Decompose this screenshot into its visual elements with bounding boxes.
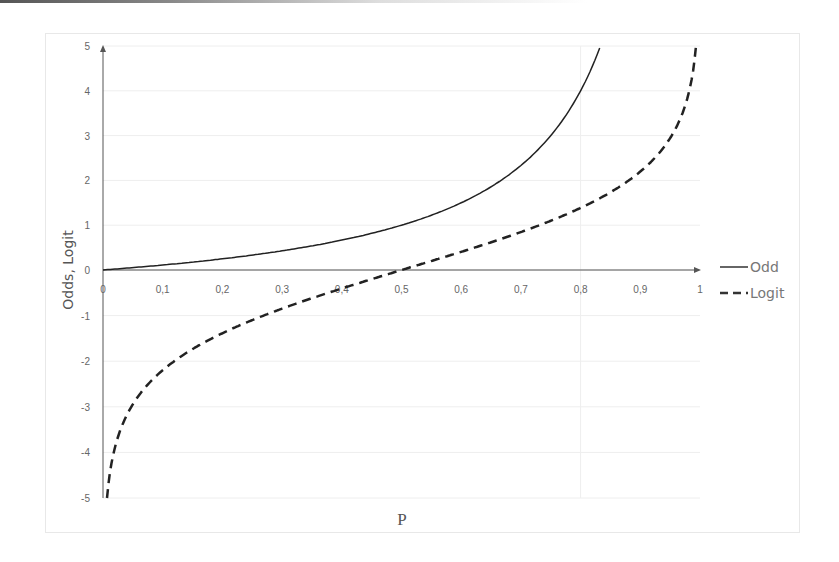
y-tick-label: -2 — [81, 356, 90, 367]
y-tick-label: -5 — [81, 493, 90, 504]
x-axis-arrow-icon — [694, 267, 701, 273]
legend-label-odd: Odd — [750, 259, 779, 275]
y-tick-label: 1 — [84, 220, 90, 231]
x-tick-label: 0,7 — [514, 284, 528, 295]
data-series — [103, 46, 696, 498]
y-tick-label: -4 — [81, 447, 90, 458]
legend-item-logit: Logit — [720, 285, 785, 301]
y-tick-labels: 543210-1-2-3-4-5 — [81, 41, 90, 504]
x-tick-label: 0 — [100, 284, 106, 295]
x-tick-label: 0,9 — [633, 284, 647, 295]
x-tick-label: 0,6 — [454, 284, 468, 295]
x-tick-label: 0,2 — [215, 284, 229, 295]
x-tick-label: 0,3 — [275, 284, 289, 295]
y-tick-label: 5 — [84, 41, 90, 52]
x-tick-label: 1 — [697, 284, 703, 295]
gridlines — [103, 46, 700, 498]
legend: Odd Logit — [720, 259, 785, 301]
series-line-odd — [103, 48, 600, 270]
y-tick-label: 3 — [84, 131, 90, 142]
y-tick-label: -1 — [81, 311, 90, 322]
x-tick-labels: 00,10,20,30,40,50,60,70,80,91 — [100, 284, 703, 295]
y-tick-label: 0 — [84, 265, 90, 276]
x-tick-label: 0,5 — [395, 284, 409, 295]
x-tick-label: 0,1 — [156, 284, 170, 295]
legend-label-logit: Logit — [750, 285, 785, 301]
x-tick-label: 0,8 — [574, 284, 588, 295]
y-tick-label: 2 — [84, 175, 90, 186]
y-axis-label: Odds, Logit — [60, 230, 76, 310]
legend-item-odd: Odd — [720, 259, 779, 275]
series-line-logit — [107, 46, 696, 498]
y-tick-label: -3 — [81, 402, 90, 413]
x-axis-label: P — [397, 510, 406, 529]
axes — [100, 45, 701, 498]
chart-canvas: 543210-1-2-3-4-5 00,10,20,30,40,50,60,70… — [0, 0, 839, 562]
y-tick-label: 4 — [84, 86, 90, 97]
